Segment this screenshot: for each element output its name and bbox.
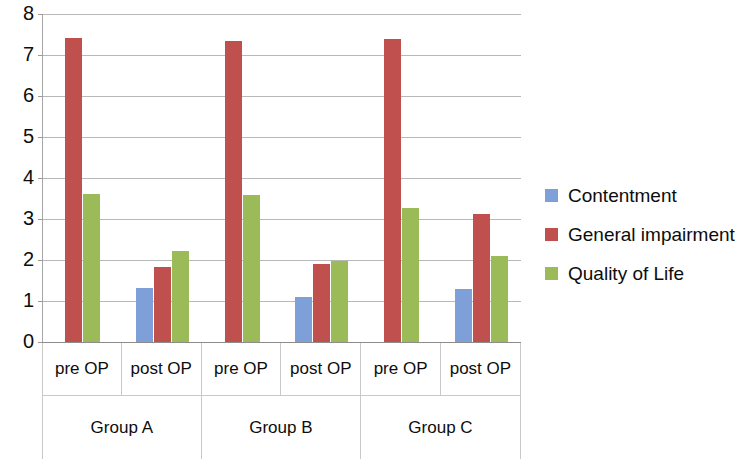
bar-quality-of-life <box>331 261 348 342</box>
x-axis-cell-group: Group B <box>202 396 362 459</box>
y-axis-tick-label: 5 <box>0 126 34 146</box>
bar-quality-of-life <box>243 195 260 342</box>
bar-contentment <box>295 297 312 342</box>
bar-general-impairment <box>384 39 401 342</box>
legend-item[interactable]: General impairment <box>545 215 745 254</box>
y-axis-tick-label: 1 <box>0 290 34 310</box>
plot-area <box>42 14 521 342</box>
bar-quality-of-life <box>491 256 508 342</box>
x-axis-cell-phase: post OP <box>122 343 202 395</box>
x-axis-cell-phase: pre OP <box>202 343 282 395</box>
category-row-group: Group AGroup BGroup C <box>42 395 521 459</box>
legend-item[interactable]: Contentment <box>545 176 745 215</box>
bar-contentment <box>455 289 472 342</box>
legend-swatch-contentment-icon <box>545 189 558 202</box>
legend-item[interactable]: Quality of Life <box>545 254 745 293</box>
x-axis-cell-phase: post OP <box>441 343 521 395</box>
legend-swatch-quality-icon <box>545 267 558 280</box>
bar-general-impairment <box>65 38 82 342</box>
category-axis-table: pre OPpost OPpre OPpost OPpre OPpost OP … <box>42 342 521 458</box>
bar-general-impairment <box>154 267 171 342</box>
y-axis-tick-label: 2 <box>0 249 34 269</box>
bar-general-impairment <box>473 214 490 342</box>
chart-legend: ContentmentGeneral impairmentQuality of … <box>545 176 745 293</box>
bar-quality-of-life <box>83 194 100 342</box>
x-axis-cell-phase: pre OP <box>361 343 441 395</box>
bar-quality-of-life <box>172 251 189 342</box>
category-row-phase: pre OPpost OPpre OPpost OPpre OPpost OP <box>42 343 521 395</box>
y-axis: 876543210 <box>0 0 34 360</box>
bar-contentment <box>136 288 153 342</box>
x-axis-cell-phase: post OP <box>281 343 361 395</box>
y-axis-tick-label: 6 <box>0 85 34 105</box>
x-axis-cell-phase: pre OP <box>42 343 122 395</box>
legend-item-label: General impairment <box>568 224 735 246</box>
x-axis-cell-group: Group C <box>361 396 521 459</box>
y-axis-tick-label: 0 <box>0 331 34 351</box>
legend-swatch-impairment-icon <box>545 228 558 241</box>
y-axis-tick-label: 8 <box>0 3 34 23</box>
legend-item-label: Contentment <box>568 185 677 207</box>
bar-quality-of-life <box>402 208 419 342</box>
bar-general-impairment <box>225 41 242 342</box>
bars-layer <box>43 14 521 342</box>
y-axis-tick-label: 4 <box>0 167 34 187</box>
y-axis-tick-label: 7 <box>0 44 34 64</box>
x-axis-cell-group: Group A <box>42 396 202 459</box>
legend-item-label: Quality of Life <box>568 263 684 285</box>
y-axis-tick-label: 3 <box>0 208 34 228</box>
bar-general-impairment <box>313 264 330 342</box>
